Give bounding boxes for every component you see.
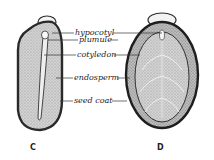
seed-diagram: hypocotyl plumule cotyledon endosperm se…	[0, 0, 214, 160]
figure-d-seed	[126, 13, 198, 128]
figure-label-d: D	[157, 143, 164, 152]
figure-label-c: C	[30, 143, 36, 152]
label-cotyledon: cotyledon	[77, 51, 116, 59]
label-endosperm: endosperm	[74, 74, 119, 82]
label-plumule: plumule	[79, 36, 112, 44]
label-seed-coat: seed coat	[74, 97, 113, 105]
